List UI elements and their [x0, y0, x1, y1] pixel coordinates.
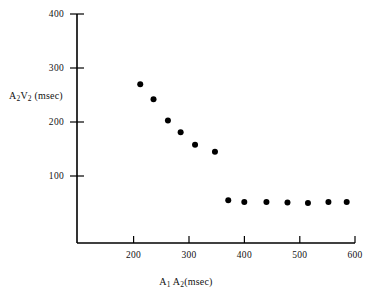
x-tick-marks	[134, 236, 355, 243]
y-tick-label-100: 100	[40, 171, 64, 181]
data-point	[165, 117, 171, 123]
data-point	[344, 199, 350, 205]
data-point	[151, 96, 157, 102]
x-axis-title: A1 A2(msec)	[159, 276, 212, 287]
y-axis-title-unit: (msec)	[32, 90, 63, 101]
x-axis-title-sub2: 2	[180, 280, 184, 289]
x-tick-label-500: 500	[292, 250, 307, 260]
x-axis-title-sub1: 1	[167, 280, 171, 289]
x-axis-title-unit: (msec)	[184, 276, 212, 287]
y-tick-label-200: 200	[40, 117, 64, 127]
data-point	[305, 200, 311, 206]
scatter-plot-figure: 400 300 200 100 200 300 400 500 600 A2V2…	[0, 0, 375, 298]
data-point	[284, 199, 290, 205]
data-points-group	[137, 81, 349, 206]
data-point	[212, 149, 218, 155]
data-point	[325, 199, 331, 205]
data-point	[263, 199, 269, 205]
data-point	[225, 197, 231, 203]
data-point	[192, 142, 198, 148]
y-axis-title-sub1: 2	[16, 94, 20, 103]
x-axis-title-b: A	[171, 276, 181, 287]
data-point	[137, 81, 143, 87]
data-point	[178, 129, 184, 135]
x-tick-label-400: 400	[237, 250, 252, 260]
y-axis-title-sub2: 2	[28, 94, 32, 103]
y-tick-label-300: 300	[40, 63, 64, 73]
y-tick-label-400: 400	[40, 9, 64, 19]
y-axis-title-b: V	[20, 90, 27, 101]
data-point	[241, 199, 247, 205]
x-tick-label-300: 300	[181, 250, 196, 260]
x-tick-label-600: 600	[347, 250, 362, 260]
y-axis-title: A2V2 (msec)	[9, 90, 63, 101]
x-tick-label-200: 200	[126, 250, 141, 260]
axes-group	[77, 14, 355, 243]
